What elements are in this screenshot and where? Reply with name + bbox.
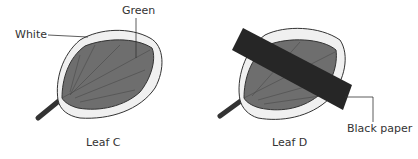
label-white: White [15, 28, 47, 41]
leaf-diagram [0, 0, 418, 159]
leaf-c [38, 30, 162, 118]
leaf-d [220, 28, 352, 119]
caption-leaf-d: Leaf D [272, 136, 307, 149]
caption-leaf-c: Leaf C [86, 136, 121, 149]
label-black-paper: Black paper [347, 122, 412, 135]
label-green: Green [122, 4, 155, 17]
